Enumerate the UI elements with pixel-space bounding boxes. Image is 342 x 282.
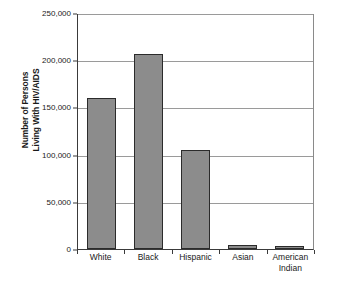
bar-series xyxy=(78,14,313,249)
bar[interactable] xyxy=(87,98,115,249)
y-axis-tick-label: 150,000 xyxy=(18,104,71,112)
y-axis-tick-label: 200,000 xyxy=(18,57,71,65)
y-axis-tick-labels: 050,000100,000150,000200,000250,000 xyxy=(18,14,71,250)
bar-slot xyxy=(78,14,125,249)
y-axis-tick-label: 100,000 xyxy=(18,152,71,160)
y-axis-tick-label: 0 xyxy=(18,246,71,254)
bar[interactable] xyxy=(228,245,256,249)
bar-slot xyxy=(125,14,172,249)
x-axis-category-labels: WhiteBlackHispanicAsianAmerican Indian xyxy=(77,252,314,274)
bar-slot xyxy=(266,14,313,249)
bar[interactable] xyxy=(181,150,209,249)
x-axis-category-label-black: Black xyxy=(124,252,171,274)
x-axis-tick-mark xyxy=(314,250,315,254)
bar-chart: Number of Persons Living With HIV/AIDS 0… xyxy=(0,0,342,282)
bar-slot xyxy=(219,14,266,249)
bar-slot xyxy=(172,14,219,249)
x-axis-category-label-asian: Asian xyxy=(219,252,266,274)
bar[interactable] xyxy=(134,54,162,249)
y-axis-tick-label: 250,000 xyxy=(18,10,71,18)
x-axis-category-label-hispanic: Hispanic xyxy=(172,252,219,274)
y-axis-tick-label: 50,000 xyxy=(18,199,71,207)
x-axis-category-label-american-indian: American Indian xyxy=(267,252,314,274)
bar[interactable] xyxy=(275,246,303,249)
plot-area xyxy=(77,14,314,250)
x-axis-category-label-white: White xyxy=(77,252,124,274)
